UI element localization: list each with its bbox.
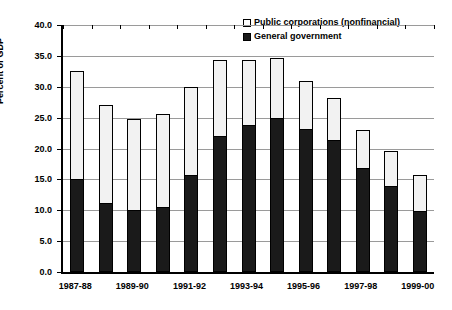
bar-segment-general-government — [413, 211, 427, 272]
x-axis-tick — [434, 25, 435, 29]
x-axis-tick-label: 1995-96 — [274, 282, 334, 291]
y-axis-tick-label: 40.0 — [18, 21, 52, 30]
bar-segment-general-government — [299, 129, 313, 272]
bar-1994-95 — [270, 57, 284, 272]
x-axis-tick — [63, 25, 64, 29]
bar-segment-public-corporations — [70, 71, 84, 180]
bar-segment-general-government — [242, 125, 256, 272]
x-axis-tick-label: 1991-92 — [159, 282, 219, 291]
bar-segment-general-government — [184, 175, 198, 272]
y-axis-tick-label: 0.0 — [18, 268, 52, 277]
x-axis-tick — [92, 25, 93, 29]
x-axis-tick — [320, 25, 321, 29]
bar-1989-90 — [127, 118, 141, 272]
bar-segment-public-corporations — [242, 60, 256, 126]
bar-segment-general-government — [270, 118, 284, 272]
y-axis-tick-label: 15.0 — [18, 175, 52, 184]
bar-segment-public-corporations — [384, 151, 398, 186]
bar-1993-94 — [242, 59, 256, 272]
bar-segment-public-corporations — [327, 98, 341, 142]
bar-segment-general-government — [127, 210, 141, 272]
bar-segment-public-corporations — [184, 87, 198, 177]
y-axis-tick-label: 30.0 — [18, 83, 52, 92]
bar-segment-public-corporations — [413, 175, 427, 212]
y-axis-tick-label: 5.0 — [18, 237, 52, 246]
x-axis-tick — [120, 25, 121, 29]
bar-1997-98 — [356, 129, 370, 272]
bar-segment-general-government — [384, 186, 398, 272]
bar-segment-general-government — [327, 140, 341, 272]
bar-1988-89 — [99, 104, 113, 272]
bar-segment-general-government — [99, 203, 113, 272]
stacked-bar-chart: Public corporations (nonfinancial) Gener… — [0, 0, 452, 310]
bar-1998-99 — [384, 150, 398, 272]
bar-segment-public-corporations — [213, 60, 227, 137]
plot-area — [61, 25, 434, 274]
bar-segment-public-corporations — [127, 119, 141, 211]
bar-1995-96 — [299, 80, 313, 272]
bar-segment-public-corporations — [99, 105, 113, 204]
x-axis-tick-label: 1993-94 — [217, 282, 277, 291]
x-axis-tick — [234, 25, 235, 29]
bar-segment-public-corporations — [356, 130, 370, 168]
x-axis-tick — [206, 25, 207, 29]
x-axis-tick — [149, 25, 150, 29]
x-axis-tick — [291, 25, 292, 29]
x-axis-tick — [263, 25, 264, 29]
bar-segment-general-government — [156, 207, 170, 272]
bar-segment-public-corporations — [270, 58, 284, 119]
x-axis-tick — [377, 25, 378, 29]
bar-1996-97 — [327, 97, 341, 272]
bar-segment-general-government — [356, 168, 370, 272]
y-axis-tick-label: 35.0 — [18, 52, 52, 61]
bar-1992-93 — [213, 59, 227, 272]
x-axis-tick-label: 1987-88 — [45, 282, 105, 291]
gridline — [63, 25, 434, 26]
bar-segment-general-government — [213, 136, 227, 272]
bar-1987-88 — [70, 70, 84, 272]
bar-1991-92 — [184, 86, 198, 272]
bar-1990-91 — [156, 113, 170, 272]
bar-segment-public-corporations — [299, 81, 313, 130]
x-axis-tick — [405, 25, 406, 29]
y-axis-tick-label: 20.0 — [18, 145, 52, 154]
bar-segment-public-corporations — [156, 114, 170, 208]
x-axis-tick — [348, 25, 349, 29]
y-axis-tick-label: 10.0 — [18, 206, 52, 215]
x-axis-tick — [177, 25, 178, 29]
bar-segment-general-government — [70, 179, 84, 272]
x-axis-tick-label: 1997-98 — [331, 282, 391, 291]
x-axis-tick-label: 1999-00 — [388, 282, 448, 291]
gridline — [63, 56, 434, 57]
x-axis-tick-label: 1989-90 — [102, 282, 162, 291]
bar-1999-00 — [413, 174, 427, 272]
y-axis-tick-label: 25.0 — [18, 114, 52, 123]
